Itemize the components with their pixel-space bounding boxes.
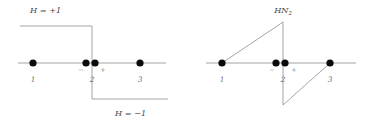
- sign-minus-label: −: [78, 66, 83, 74]
- tick-label-2: 2: [89, 75, 95, 84]
- sign-minus-label: −: [269, 66, 274, 74]
- tick-label-1: 1: [31, 75, 36, 84]
- node-dot-1: [29, 59, 36, 66]
- node-dot-3: [136, 59, 143, 66]
- node-dot-2-right: [91, 59, 98, 66]
- node-dot-2-right: [281, 59, 288, 66]
- node-dot-1: [218, 59, 225, 66]
- tick-label-3: 3: [138, 75, 143, 84]
- sawtooth-title-main: HN: [273, 5, 289, 15]
- sawtooth-title: HN2: [273, 5, 292, 16]
- tick-label-1: 1: [220, 75, 225, 84]
- tick-label-3: 3: [328, 75, 333, 84]
- sign-plus-label: +: [291, 66, 296, 74]
- step-function-panel: H = +1 − + 1 2 3 H = −1: [0, 0, 186, 126]
- sawtooth-function-panel: HN2 − + 1 2 3: [186, 0, 373, 126]
- sign-plus-label: +: [100, 66, 105, 74]
- lower-step-label: H = −1: [114, 108, 146, 118]
- node-dot-3: [326, 59, 333, 66]
- upper-step-label: H = +1: [29, 5, 61, 15]
- sawtooth-title-subscript: 2: [287, 10, 292, 16]
- tick-label-2: 2: [280, 75, 286, 84]
- figure-root: H = +1 − + 1 2 3 H = −1 HN2: [0, 0, 373, 126]
